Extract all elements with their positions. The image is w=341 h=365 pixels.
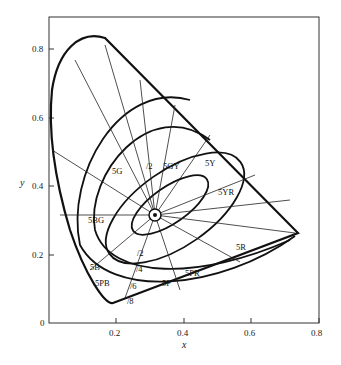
chroma-label-2-top: /2 xyxy=(146,161,153,171)
chroma-label-2: /2 xyxy=(137,248,144,258)
chroma-label-6: /6 xyxy=(130,281,137,291)
y-axis-label: y xyxy=(19,177,25,188)
chromaticity-diagram: 5G 5GY 5Y 5YR 5BG 5R 5B 5PB 5P 5PR /2 /2… xyxy=(0,0,341,365)
hue-label-5bg: 5BG xyxy=(88,215,104,225)
y-tick-0: 0 xyxy=(40,318,45,328)
x-tick-0.2: 0.2 xyxy=(109,328,120,338)
chroma-loci xyxy=(78,97,295,285)
hue-label-5pb: 5PB xyxy=(95,278,110,288)
y-tick-0.6: 0.6 xyxy=(32,113,44,123)
y-tick-0.2: 0.2 xyxy=(32,250,43,260)
x-tick-0.6: 0.6 xyxy=(244,328,256,338)
chroma-label-8: /8 xyxy=(127,296,134,306)
hue-label-5yr: 5YR xyxy=(218,187,234,197)
hue-label-5y: 5Y xyxy=(205,158,215,168)
hue-label-5r: 5R xyxy=(236,242,246,252)
x-tick-0.4: 0.4 xyxy=(177,328,189,338)
hue-lines xyxy=(52,45,295,298)
hue-label-5pr: 5PR xyxy=(185,268,200,278)
y-tick-0.4: 0.4 xyxy=(32,181,44,191)
y-tick-0.8: 0.8 xyxy=(32,44,44,54)
hue-label-5b: 5B xyxy=(90,262,100,272)
x-tick-0.8: 0.8 xyxy=(311,328,323,338)
x-axis-label: x xyxy=(181,339,187,350)
hue-label-5p: 5P xyxy=(162,278,171,288)
hue-label-5gy: 5GY xyxy=(163,161,180,171)
hue-label-5g: 5G xyxy=(112,166,122,176)
chroma-label-4: /4 xyxy=(136,264,143,274)
